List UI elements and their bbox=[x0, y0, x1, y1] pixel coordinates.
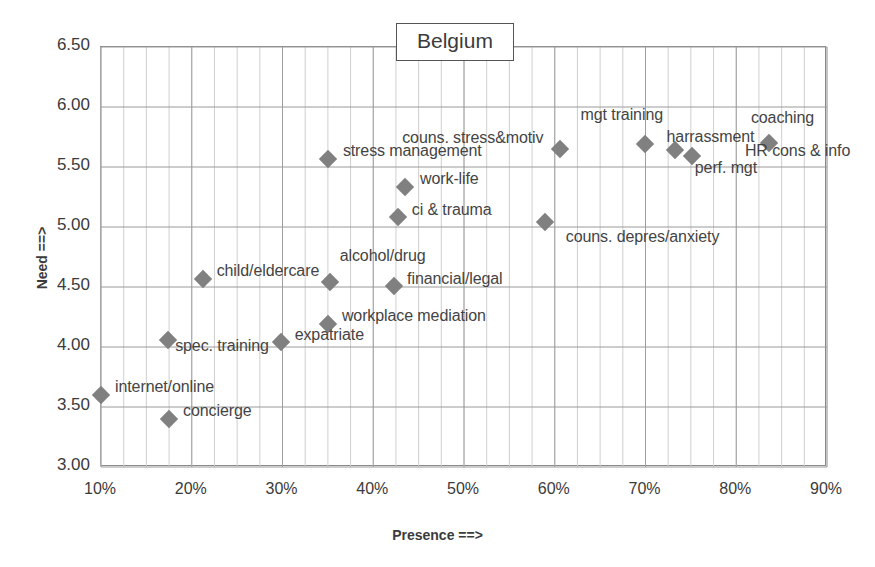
y-axis-tick-label: 6.00 bbox=[34, 95, 90, 115]
chart-title-box: Belgium bbox=[396, 23, 514, 61]
scatter-point-label: coaching bbox=[751, 109, 814, 127]
scatter-point-label: internet/online bbox=[115, 378, 214, 396]
x-axis-tick-label: 10% bbox=[70, 480, 130, 498]
scatter-point-label: child/eldercare bbox=[217, 262, 320, 280]
y-axis-tick-label: 4.00 bbox=[34, 335, 90, 355]
scatter-point-label: alcohol/drug bbox=[340, 247, 426, 265]
scatter-point-label: perf. mgt bbox=[695, 159, 757, 177]
y-axis-tick-label: 3.00 bbox=[34, 455, 90, 475]
scatter-point-label: ci & trauma bbox=[412, 201, 492, 219]
scatter-point-label: financial/legal bbox=[407, 270, 502, 288]
scatter-point-label: expatriate bbox=[295, 326, 364, 344]
plot-area: internet/onlineconciergespec. trainingch… bbox=[100, 46, 826, 466]
scatter-point-label: concierge bbox=[183, 402, 251, 420]
scatter-point-label: harrassment bbox=[667, 128, 755, 146]
x-axis-tick-label: 50% bbox=[433, 480, 493, 498]
x-axis-tick-label: 30% bbox=[252, 480, 312, 498]
x-axis-title: Presence ==> bbox=[0, 527, 875, 543]
x-axis-tick-label: 70% bbox=[615, 480, 675, 498]
y-axis-tick-label: 3.50 bbox=[34, 395, 90, 415]
y-axis-title: Need ==> bbox=[34, 198, 50, 318]
scatter-point-label: work-life bbox=[420, 170, 479, 188]
scatter-point-label: mgt training bbox=[581, 106, 663, 124]
scatter-point-label: couns. depres/anxiety bbox=[566, 228, 720, 246]
scatter-point-label: workplace mediation bbox=[342, 307, 486, 325]
x-axis-tick-label: 90% bbox=[796, 480, 856, 498]
x-axis-tick-label: 40% bbox=[342, 480, 402, 498]
y-axis-tick-label: 6.50 bbox=[34, 35, 90, 55]
x-axis-tick-label: 20% bbox=[161, 480, 221, 498]
scatter-point-label: couns. stress&motiv bbox=[402, 129, 543, 147]
scatter-point-label: spec. training bbox=[175, 337, 269, 355]
y-axis-tick-label: 5.50 bbox=[34, 155, 90, 175]
scatter-point-label: HR cons & info bbox=[745, 142, 850, 160]
x-axis-tick-label: 60% bbox=[524, 480, 584, 498]
x-axis-tick-label: 80% bbox=[705, 480, 765, 498]
